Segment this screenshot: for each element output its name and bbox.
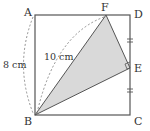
geometry-diagram: A B C D E F 8 cm 10 cm xyxy=(0,0,150,131)
label-c: C xyxy=(134,115,142,128)
label-b: B xyxy=(24,115,32,128)
measure-ab: 8 cm xyxy=(3,59,26,70)
measure-bf: 10 cm xyxy=(44,51,73,62)
shaded-triangle-bfe xyxy=(35,15,130,115)
label-d: D xyxy=(134,8,143,21)
label-a: A xyxy=(23,6,33,19)
label-e: E xyxy=(134,62,142,75)
label-f: F xyxy=(101,1,109,14)
